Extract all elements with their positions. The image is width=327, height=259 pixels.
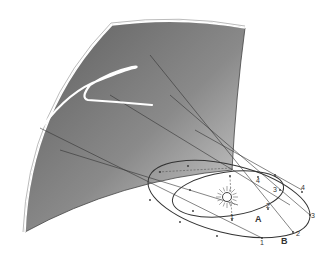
celestial-surface [25,21,245,232]
tick [301,191,303,193]
tick [189,189,191,191]
orbit-b-pos-4: 4 [301,184,305,191]
tick [216,235,218,237]
orbit-a-label: A [255,214,262,224]
tick [279,189,281,191]
orbit-a-pos-3: 3 [273,186,277,193]
tick [149,199,151,201]
orbit-b-pos-3: 3 [311,212,315,219]
tick [159,171,161,173]
tick [229,175,231,177]
tick [187,165,189,167]
orbit-b-pos-2: 2 [296,230,300,237]
diagram-svg: A B 1 2 3 4 1 2 3 4 [0,0,327,259]
orbit-a-pos-1: 1 [230,213,234,220]
tick [274,174,276,176]
diagram-canvas: A B 1 2 3 4 1 2 3 4 [0,0,327,259]
tick [292,231,294,233]
sun-icon [216,186,238,208]
orbit-a-pos-2: 2 [266,202,270,209]
tick [192,210,194,212]
orbit-b-label: B [281,236,288,246]
orbit-b-pos-1: 1 [260,239,264,246]
orbit-a-pos-4: 4 [256,177,260,184]
tick [179,221,181,223]
